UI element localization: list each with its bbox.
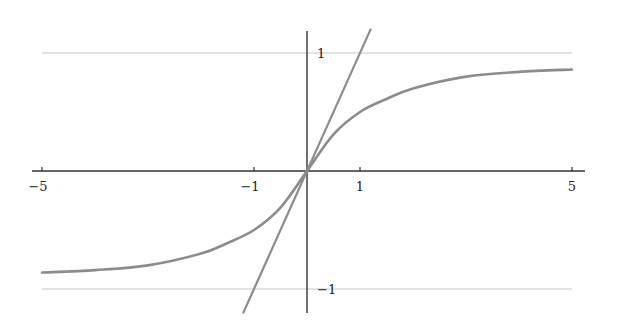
x-tick-label: −1 (240, 179, 259, 194)
y-tick-label: −1 (317, 282, 336, 297)
x-tick-label: −5 (28, 179, 47, 194)
x-tick-label: 5 (568, 179, 576, 194)
chart: −5−115 1−1 (0, 0, 617, 326)
x-tick-label: 1 (356, 179, 364, 194)
y-tick-label: 1 (317, 46, 325, 61)
